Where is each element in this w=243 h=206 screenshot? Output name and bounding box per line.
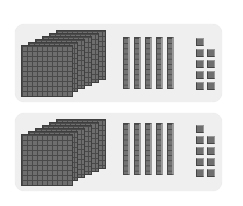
unit-cube — [207, 60, 215, 68]
hundred-flat — [21, 45, 73, 97]
ten-rod — [145, 37, 152, 89]
unit-cube — [207, 71, 215, 79]
unit-cube — [207, 136, 215, 144]
unit-cube — [196, 38, 204, 46]
hundreds-flats-stack — [21, 119, 107, 187]
ten-rod — [167, 123, 174, 175]
ten-rod — [134, 37, 141, 89]
ten-rod — [145, 123, 152, 175]
unit-cubes — [195, 125, 217, 181]
unit-cube — [207, 158, 215, 166]
unit-cubes — [195, 38, 217, 94]
hundreds-flats-stack — [21, 30, 107, 98]
unit-cube — [196, 49, 204, 57]
unit-cube — [196, 169, 204, 177]
unit-cube — [207, 49, 215, 57]
ten-rod — [123, 123, 130, 175]
unit-cube — [196, 147, 204, 155]
unit-cube — [196, 125, 204, 133]
unit-cube — [196, 60, 204, 68]
ten-rod — [134, 123, 141, 175]
unit-cube — [196, 82, 204, 90]
ten-rod — [156, 37, 163, 89]
unit-cube — [207, 147, 215, 155]
panel-top — [15, 24, 222, 102]
hundred-flat — [21, 134, 73, 186]
unit-cube — [196, 158, 204, 166]
ten-rod — [123, 37, 130, 89]
unit-cube — [207, 82, 215, 90]
panel-bottom — [15, 113, 222, 191]
ten-rod — [156, 123, 163, 175]
unit-cube — [207, 169, 215, 177]
ten-rod — [167, 37, 174, 89]
tens-rods — [123, 123, 179, 175]
unit-cube — [196, 71, 204, 79]
unit-cube — [196, 136, 204, 144]
tens-rods — [123, 37, 179, 89]
